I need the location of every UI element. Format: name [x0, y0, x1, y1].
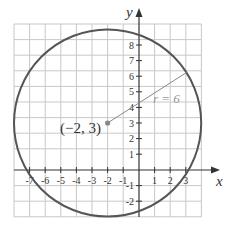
x-tick-label: -5: [57, 175, 65, 186]
y-tick-label: -1: [126, 180, 134, 191]
x-tick-label: 2: [168, 175, 173, 186]
center-point: [105, 120, 110, 125]
y-tick-label: 3: [129, 118, 134, 129]
x-tick-label: -2: [103, 175, 111, 186]
y-axis-label: y: [124, 4, 133, 20]
y-tick-labels: 8 7 6 5 4 3 2 1 -1 -2: [126, 40, 134, 207]
y-tick-label: -2: [126, 196, 134, 207]
x-axis-label: x: [215, 173, 223, 189]
x-tick-label: 1: [152, 175, 157, 186]
center-label: (−2, 3): [60, 120, 101, 137]
y-tick-label: 8: [129, 40, 134, 51]
y-tick-label: 7: [129, 55, 134, 66]
x-tick-label: -6: [41, 175, 49, 186]
y-tick-label: 2: [129, 133, 134, 144]
radius-label: r = 6: [153, 91, 180, 106]
y-tick-label: 5: [129, 86, 134, 97]
y-axis-arrow-icon: [136, 8, 143, 17]
y-tick-label: 6: [129, 71, 134, 82]
x-tick-labels: -7 -6 -5 -4 -3 -2 -1 1 2 3: [25, 175, 188, 186]
coordinate-plane: -7 -6 -5 -4 -3 -2 -1 1 2 3 8 7 6 5 4 3 2…: [0, 0, 225, 232]
y-tick-label: 1: [129, 149, 134, 160]
x-tick-label: -3: [88, 175, 96, 186]
x-tick-label: -4: [72, 175, 80, 186]
